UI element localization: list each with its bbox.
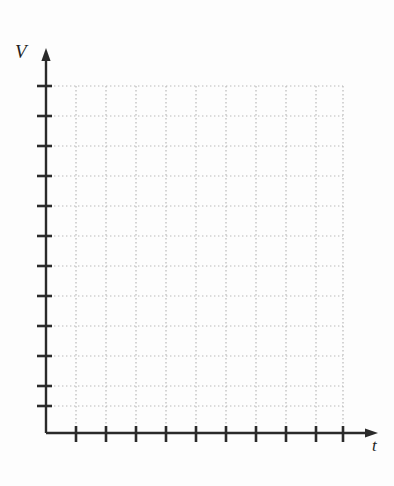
y-axis-label: V xyxy=(15,42,27,61)
grid-vertical-lines xyxy=(76,86,343,433)
graph-figure: V t xyxy=(0,0,394,486)
x-axis-label: t xyxy=(372,437,377,454)
grid-horizontal-lines xyxy=(46,86,343,406)
y-axis-arrowhead xyxy=(41,48,50,61)
plot-area xyxy=(0,0,394,486)
y-axis-ticks xyxy=(37,86,52,406)
